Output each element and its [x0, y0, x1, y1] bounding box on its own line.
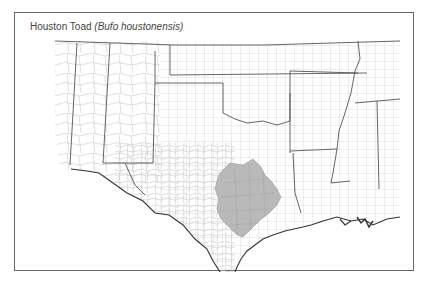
map-frame: Houston Toad (Bufo houstonensis) — [14, 12, 414, 271]
range-map — [15, 13, 415, 272]
land-area — [45, 33, 410, 272]
